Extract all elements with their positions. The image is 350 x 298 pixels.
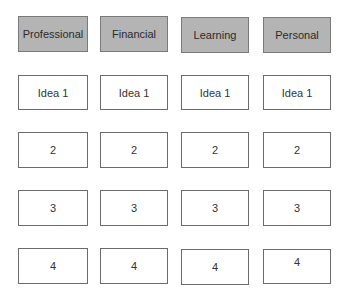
idea-box: 2: [181, 132, 249, 168]
header-financial: Financial: [100, 16, 168, 52]
header-personal: Personal: [263, 17, 331, 53]
idea-box: Idea 1: [181, 75, 249, 110]
idea-box: 3: [100, 190, 168, 226]
idea-box: 3: [181, 190, 249, 226]
idea-box: 4: [100, 248, 168, 284]
header-learning: Learning: [181, 17, 249, 53]
idea-box: Idea 1: [18, 75, 88, 110]
idea-box: 2: [18, 132, 88, 168]
idea-box: Idea 1: [100, 75, 168, 110]
header-professional: Professional: [18, 16, 88, 52]
idea-box: 4: [181, 249, 249, 285]
idea-box: 4: [18, 248, 88, 284]
idea-box: 3: [18, 190, 88, 226]
idea-box: 2: [263, 132, 331, 168]
idea-box: 2: [100, 132, 168, 168]
idea-box: Idea 1: [263, 75, 331, 110]
idea-box: 3: [263, 190, 331, 226]
idea-box: 4: [263, 249, 331, 284]
